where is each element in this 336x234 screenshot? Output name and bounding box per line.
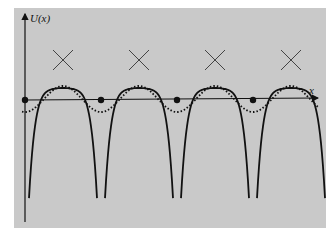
atom-site-dot [22, 97, 28, 103]
atom-site-dot [250, 97, 256, 103]
isolated-potential-crossing [53, 50, 73, 70]
isolated-potential-crossing [281, 50, 301, 70]
y-axis-label: U(x) [30, 12, 50, 25]
isolated-potential-crossing [205, 50, 225, 70]
atom-site-dot [174, 97, 180, 103]
atom-site-dot [98, 97, 104, 103]
potential-diagram: U(x) x [0, 0, 336, 234]
isolated-potential-crossing [129, 50, 149, 70]
x-axis [25, 98, 318, 100]
